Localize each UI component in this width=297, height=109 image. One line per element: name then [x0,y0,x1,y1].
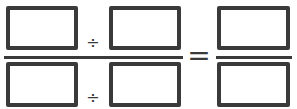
box-numerator-left[interactable] [6,6,78,50]
box-denominator-right[interactable] [109,62,181,107]
box-result-denominator[interactable] [217,62,290,107]
fraction-line-right [216,56,292,59]
box-result-numerator[interactable] [217,6,290,50]
fraction-line-left [4,56,183,59]
equals-sign: = [187,42,211,70]
divide-operator-bottom: ÷ [85,90,101,106]
box-denominator-left[interactable] [6,62,78,107]
divide-operator-top: ÷ [85,35,101,51]
box-numerator-right[interactable] [109,6,181,50]
